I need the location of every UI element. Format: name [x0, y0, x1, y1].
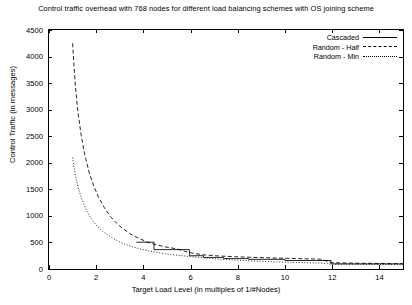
x-tick-label: 10 — [273, 273, 297, 282]
y-tick-mark — [48, 242, 52, 243]
y-tick-mark-right — [399, 189, 403, 190]
y-tick-mark — [48, 189, 52, 190]
x-tick-label: 12 — [320, 273, 344, 282]
y-tick-mark — [48, 57, 52, 58]
x-tick-mark-top — [285, 29, 286, 33]
y-tick-mark-right — [399, 163, 403, 164]
x-tick-mark — [285, 265, 286, 269]
x-tick-label: 14 — [367, 273, 391, 282]
x-tick-mark-top — [332, 29, 333, 33]
y-tick-mark — [48, 136, 52, 137]
legend-item-cascaded: Cascaded — [313, 33, 397, 43]
x-tick-label: 6 — [179, 273, 203, 282]
legend-label-random-min: Random - Min — [314, 52, 359, 62]
y-tick-mark — [48, 110, 52, 111]
y-tick-label: 1500 — [3, 185, 43, 194]
legend: Cascaded Random - Half Random - Min — [313, 33, 397, 62]
y-tick-mark-right — [399, 216, 403, 217]
x-tick-mark — [238, 265, 239, 269]
x-tick-label: 8 — [226, 273, 250, 282]
chart-title: Control traffic overhead with 768 nodes … — [0, 4, 412, 13]
y-tick-label: 4500 — [3, 26, 43, 35]
y-tick-label: 2000 — [3, 158, 43, 167]
x-tick-label: 0 — [37, 273, 61, 282]
x-tick-mark-top — [143, 29, 144, 33]
x-tick-mark — [96, 265, 97, 269]
y-tick-label: 3000 — [3, 105, 43, 114]
x-tick-mark-top — [49, 29, 50, 33]
y-tick-mark — [48, 83, 52, 84]
plot-area: Cascaded Random - Half Random - Min — [48, 29, 404, 270]
y-tick-mark — [48, 216, 52, 217]
y-tick-label: 4000 — [3, 52, 43, 61]
y-tick-mark-right — [399, 57, 403, 58]
x-tick-label: 2 — [84, 273, 108, 282]
y-tick-mark-right — [399, 242, 403, 243]
series-line-random-half — [73, 43, 403, 263]
y-tick-label: 2500 — [3, 132, 43, 141]
x-tick-mark-top — [96, 29, 97, 33]
y-tick-mark-right — [399, 30, 403, 31]
y-tick-mark — [48, 269, 52, 270]
x-axis-title: Target Load Level (in multiples of 1/#No… — [0, 285, 412, 294]
x-tick-mark-top — [238, 29, 239, 33]
y-tick-mark-right — [399, 83, 403, 84]
y-tick-label: 500 — [3, 238, 43, 247]
series-line-random-min — [73, 157, 403, 264]
x-tick-mark — [191, 265, 192, 269]
y-tick-label: 1000 — [3, 211, 43, 220]
legend-key-cascaded — [363, 37, 397, 39]
chart-figure: Control traffic overhead with 768 nodes … — [0, 0, 412, 305]
legend-label-cascaded: Cascaded — [327, 33, 359, 43]
y-tick-mark-right — [399, 136, 403, 137]
y-tick-mark-right — [399, 110, 403, 111]
legend-label-random-half: Random - Half — [313, 43, 359, 53]
x-tick-mark — [379, 265, 380, 269]
x-tick-mark-top — [379, 29, 380, 33]
legend-item-random-min: Random - Min — [313, 52, 397, 62]
series-line-cascaded — [136, 242, 403, 264]
legend-item-random-half: Random - Half — [313, 43, 397, 53]
y-tick-label: 3500 — [3, 79, 43, 88]
x-tick-mark — [143, 265, 144, 269]
x-tick-mark — [332, 265, 333, 269]
y-tick-mark-right — [399, 269, 403, 270]
x-tick-label: 4 — [131, 273, 155, 282]
legend-key-random-min — [363, 56, 397, 58]
plot-canvas — [49, 30, 403, 269]
x-tick-mark — [49, 265, 50, 269]
legend-key-random-half — [363, 46, 397, 48]
y-tick-mark — [48, 163, 52, 164]
x-tick-mark-top — [191, 29, 192, 33]
